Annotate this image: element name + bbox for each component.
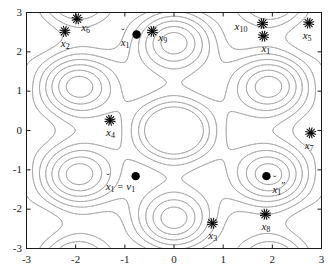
label-x_1_check: xˇ1 bbox=[121, 36, 130, 50]
asterisk-marker bbox=[105, 115, 115, 125]
label-x_1: x1 bbox=[261, 42, 270, 56]
label-x_3: x3 bbox=[208, 229, 217, 243]
label-x_2: x2 bbox=[61, 37, 70, 51]
label-x_5: x5 bbox=[303, 29, 312, 43]
y-tick-label: 3 bbox=[6, 6, 22, 18]
y-tick-label: 1 bbox=[6, 84, 22, 96]
x-tick-label: -1 bbox=[120, 253, 130, 265]
y-tick-label: 2 bbox=[6, 45, 22, 57]
label-x_8: x8 bbox=[261, 220, 270, 234]
label-x_1_dprime: xˇ1″ bbox=[272, 180, 285, 197]
asterisk-marker bbox=[258, 31, 268, 41]
filled-circle-marker bbox=[131, 172, 139, 180]
label-x_9: x9 bbox=[158, 31, 167, 45]
filled-circle-marker bbox=[132, 30, 140, 38]
asterisk-marker bbox=[306, 128, 316, 138]
x-tick-label: -3 bbox=[22, 253, 32, 265]
label-x_1_eq_v1: xˇ1 = v1 bbox=[106, 180, 136, 194]
asterisk-marker bbox=[207, 218, 217, 228]
axes-frame bbox=[27, 13, 322, 249]
plot-canvas bbox=[0, 0, 335, 277]
x-tick-label: 2 bbox=[267, 253, 277, 265]
label-x_4: x4 bbox=[106, 126, 115, 140]
contour-figure: -3-2-10123 -3-2-10123 x1x2x3x4x5x6x7x8x9… bbox=[0, 0, 335, 277]
asterisk-marker bbox=[147, 26, 157, 36]
y-tick-label: -1 bbox=[6, 163, 22, 175]
label-x_7: x7 bbox=[305, 139, 314, 153]
x-tick-label: 1 bbox=[218, 253, 228, 265]
x-tick-label: 0 bbox=[169, 253, 179, 265]
axis-ticks bbox=[27, 13, 322, 249]
contour-lines bbox=[27, 13, 321, 249]
filled-circle-marker bbox=[262, 172, 270, 180]
asterisk-marker bbox=[60, 26, 70, 36]
label-x_10: x10 bbox=[235, 20, 248, 34]
y-tick-label: 0 bbox=[6, 124, 22, 136]
asterisk-marker bbox=[304, 18, 314, 28]
x-tick-label: -2 bbox=[71, 253, 81, 265]
y-tick-label: -3 bbox=[6, 242, 22, 254]
y-tick-label: -2 bbox=[6, 202, 22, 214]
label-x_6: x6 bbox=[81, 21, 90, 35]
x-tick-label: 3 bbox=[317, 253, 327, 265]
